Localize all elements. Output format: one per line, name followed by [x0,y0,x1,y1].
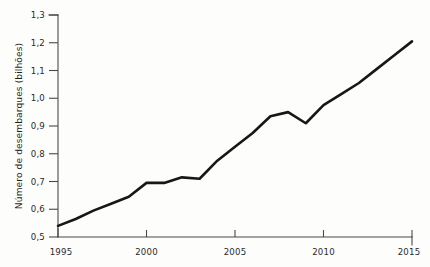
y-tick-label: 0,6 [31,204,45,214]
x-axis-tick-labels: 1995 2000 2005 2010 2015 [50,247,421,257]
x-tick-label: 1995 [50,247,73,257]
y-tick-label: 0,9 [31,121,45,131]
x-tick-label: 2000 [135,247,158,257]
y-tick-label: 1,0 [31,93,45,103]
y-axis-ticks [49,15,58,237]
x-tick-label: 2010 [312,247,335,257]
y-tick-label: 0,7 [31,177,45,187]
y-axis-tick-labels: 0,5 0,6 0,7 0,8 0,9 1,0 1,1 1,2 1,3 [31,10,45,242]
y-axis-title: Número de desembarques (bilhões) [14,43,24,209]
data-series-line [58,41,412,226]
line-chart: 0,5 0,6 0,7 0,8 0,9 1,0 1,1 1,2 1,3 1995… [0,0,430,267]
x-axis-ticks [58,228,412,237]
axes-group [49,15,412,245]
y-tick-label: 1,1 [31,66,45,76]
chart-canvas: 0,5 0,6 0,7 0,8 0,9 1,0 1,1 1,2 1,3 1995… [0,0,430,267]
x-tick-label: 2005 [224,247,247,257]
y-tick-label: 0,5 [31,232,45,242]
x-tick-label: 2015 [398,247,421,257]
y-tick-label: 1,3 [31,10,45,20]
y-tick-label: 0,8 [31,149,45,159]
y-tick-label: 1,2 [31,38,45,48]
